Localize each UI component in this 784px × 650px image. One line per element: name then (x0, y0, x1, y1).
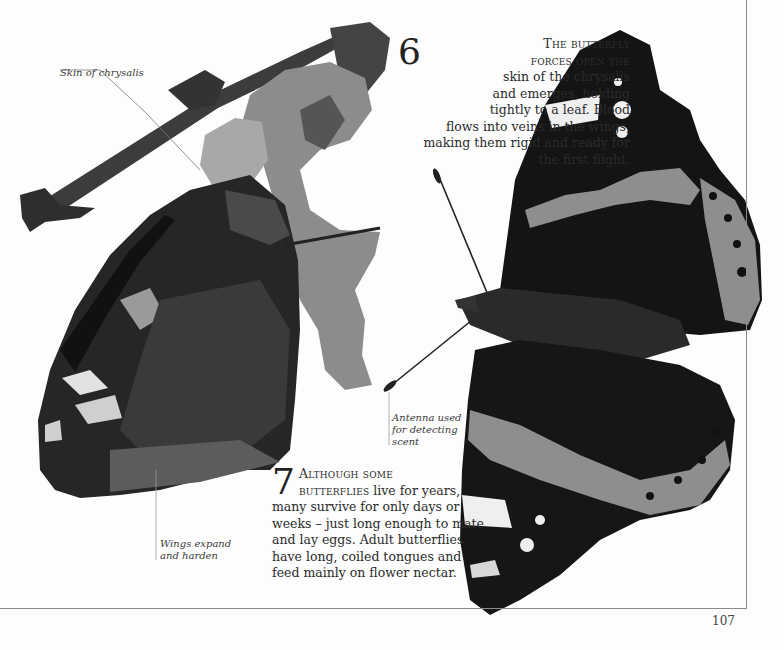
caption-text: Skin of chrysalis (60, 67, 144, 78)
step-6-line-4: and emerges, holding (398, 86, 630, 103)
caption-wings-expand: Wings expand and harden (160, 538, 231, 562)
page-number: 107 (712, 614, 735, 628)
step-6-line-5: tightly to a leaf. Blood (398, 102, 630, 119)
step-number: 6 (398, 37, 421, 67)
step-7-lead-in-1: Although some (299, 466, 393, 481)
step-7-paragraph: 7 Although some butterflies live for yea… (272, 466, 492, 582)
caption-line-3: scent (392, 436, 419, 447)
step-6-line-2-text: forces open the (531, 53, 630, 68)
step-6-line-1: The butterfly (398, 36, 630, 53)
caption-line-1: Antenna used (392, 412, 462, 423)
step-6-line-3: skin of the chrysalis (398, 69, 630, 86)
step-6-line-2: forces open the (398, 53, 630, 70)
step-6-line-6: flows into veins in the wings, (398, 119, 630, 136)
book-page: 6 The butterfly forces open the skin of … (0, 0, 784, 650)
step-6-line-7: making them rigid and ready for (398, 135, 630, 152)
caption-line-1: Wings expand (160, 538, 231, 549)
step-6-paragraph: 6 The butterfly forces open the skin of … (398, 36, 630, 168)
caption-line-2: and harden (160, 550, 218, 561)
caption-skin-of-chrysalis: Skin of chrysalis (60, 67, 144, 79)
step-6-line-8: the first flight. (398, 152, 630, 169)
caption-line-2: for detecting (392, 424, 458, 435)
caption-antenna: Antenna used for detecting scent (392, 412, 462, 448)
step-number: 7 (272, 467, 295, 497)
page-frame-right (746, 0, 747, 609)
page-frame-bottom (0, 608, 747, 609)
step-7-lead-in-2: butterflies (299, 483, 369, 498)
